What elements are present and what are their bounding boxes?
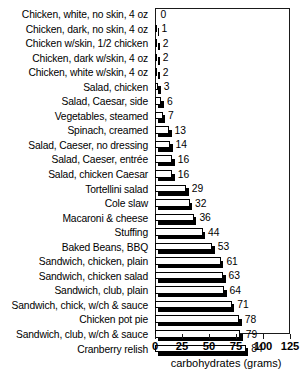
category-label: Sandwich, chicken salad [0, 270, 152, 285]
bar-value-label: 44 [208, 226, 219, 241]
bar-row: 2 [155, 52, 290, 67]
category-label: Chicken, white, no skin, 4 oz [0, 8, 152, 23]
x-axis-tick-label: 125 [281, 339, 300, 353]
x-axis-title: carbohydrates (grams) [155, 357, 297, 369]
bar [155, 68, 157, 76]
bar [155, 185, 186, 193]
bar-row: 29 [155, 183, 290, 198]
bar-row: 61 [155, 255, 290, 270]
bar-value-label: 2 [163, 66, 169, 81]
bar-row: 1 [155, 23, 290, 38]
category-label: Sandwich, chicken, plain [0, 255, 152, 270]
bar-value-label: 2 [163, 51, 169, 66]
category-label: Sandwich, club, plain [0, 284, 152, 299]
x-axis-tick-labels: 0255075100125 [155, 339, 290, 355]
bar-row: 36 [155, 212, 290, 227]
bar-row: 63 [155, 270, 290, 285]
bar-value-label: 61 [226, 255, 237, 270]
bar [155, 155, 172, 163]
bar-value-label: 71 [237, 298, 248, 313]
category-label: Chicken, dark w/skin, 4 oz [0, 52, 152, 67]
bar-shadow [158, 72, 160, 80]
bar-row: 16 [155, 168, 290, 183]
x-axis-tick-label: 100 [254, 339, 273, 353]
category-label: Spinach, creamed [0, 124, 152, 139]
bar [155, 315, 239, 323]
category-label: Chicken, dark, no skin, 4 oz [0, 23, 152, 38]
bars-layer: 0122236713141616293236445361636471787984 [155, 8, 290, 328]
bar-row: 64 [155, 284, 290, 299]
bar-row: 78 [155, 313, 290, 328]
bar-value-label: 1 [162, 22, 168, 37]
bar-value-label: 64 [230, 284, 241, 299]
bar [155, 54, 157, 62]
bar-value-label: 78 [245, 313, 256, 328]
x-axis-tick-label: 25 [176, 339, 188, 353]
x-axis-tick-label: 75 [230, 339, 242, 353]
category-label: Baked Beans, BBQ [0, 241, 152, 256]
category-label: Salad, chicken Caesar [0, 168, 152, 183]
bar-row: 71 [155, 299, 290, 314]
bar [155, 301, 232, 309]
bar-value-label: 7 [168, 109, 174, 124]
x-axis-tick-label: 50 [203, 339, 215, 353]
bar-value-label: 0 [161, 8, 167, 23]
bar [155, 83, 158, 91]
bar-value-label: 53 [218, 240, 229, 255]
bar-row: 0 [155, 8, 290, 23]
category-label: Cranberry relish [0, 343, 152, 358]
bar-value-label: 36 [199, 211, 210, 226]
bar-chart: Chicken, white, no skin, 4 ozChicken, da… [0, 0, 300, 379]
category-label-column: Chicken, white, no skin, 4 ozChicken, da… [0, 8, 152, 357]
bar-value-label: 14 [176, 138, 187, 153]
bar [155, 243, 212, 251]
category-label: Sandwich, club, w/ch & sauce [0, 328, 152, 343]
category-label: Tortellini salad [0, 183, 152, 198]
bar [155, 257, 221, 265]
category-label: Sandwich, chick, w/ch & sauce [0, 299, 152, 314]
bar [155, 286, 224, 294]
category-label: Salad, chicken [0, 81, 152, 96]
bar [155, 25, 157, 33]
bar-row: 6 [155, 95, 290, 110]
bar [155, 228, 203, 236]
bar-shadow [158, 57, 160, 65]
category-label: Salad, Caesar, side [0, 95, 152, 110]
bar-row: 53 [155, 241, 290, 256]
category-label: Chicken pot pie [0, 313, 152, 328]
category-label: Chicken, white w/skin, 4 oz [0, 66, 152, 81]
bar-value-label: 16 [178, 153, 189, 168]
bar [155, 39, 157, 47]
category-label: Stuffing [0, 226, 152, 241]
bar-value-label: 6 [167, 95, 173, 110]
bar [155, 272, 223, 280]
bar [155, 170, 172, 178]
bar-value-label: 3 [164, 80, 170, 95]
bar [155, 97, 161, 105]
category-label: Chicken w/skin, 1/2 chicken [0, 37, 152, 52]
category-label: Vegetables, steamed [0, 110, 152, 125]
bar-value-label: 13 [175, 124, 186, 139]
category-label: Cole slaw [0, 197, 152, 212]
x-axis-tick-label: 0 [152, 339, 158, 353]
bar-row: 44 [155, 226, 290, 241]
bar-row: 13 [155, 124, 290, 139]
bar [155, 141, 170, 149]
bar-row: 16 [155, 153, 290, 168]
bar-row: 32 [155, 197, 290, 212]
bar-value-label: 32 [195, 197, 206, 212]
bar-value-label: 63 [229, 269, 240, 284]
bar [155, 112, 163, 120]
category-label: Macaroni & cheese [0, 212, 152, 227]
bar-value-label: 29 [192, 182, 203, 197]
bar-row: 2 [155, 37, 290, 52]
bar-row: 7 [155, 110, 290, 125]
bar [155, 214, 194, 222]
bar [155, 126, 169, 134]
bar-shadow [158, 28, 159, 36]
bar [155, 199, 190, 207]
bar-row: 2 [155, 66, 290, 81]
bar-shadow [158, 43, 160, 51]
category-label: Salad, Caeser, entrée [0, 153, 152, 168]
bar-value-label: 2 [163, 37, 169, 52]
